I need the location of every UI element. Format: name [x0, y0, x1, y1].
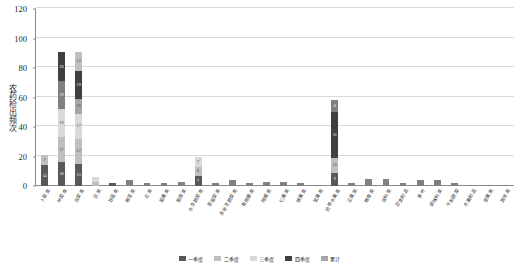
bar-segment	[451, 183, 458, 186]
bar-segment	[92, 182, 99, 186]
bar-segment	[229, 180, 236, 186]
bar-column[interactable]	[280, 182, 287, 186]
x-axis-label: 调味料类	[429, 188, 444, 208]
bar-value-label: 20	[58, 64, 65, 68]
bar-column[interactable]	[400, 183, 407, 186]
bar-column[interactable]	[502, 185, 509, 186]
legend-item[interactable]: 累计	[321, 255, 341, 262]
y-axis-label: 40	[0, 122, 27, 132]
legend-item[interactable]: 二季度	[214, 255, 239, 262]
x-axis-label: 水果制品	[463, 188, 478, 208]
bar-segment	[365, 179, 372, 186]
y-axis-label: 0	[0, 181, 27, 191]
x-axis-label: 其他类	[500, 188, 512, 204]
x-axis-label: 瓜果类	[346, 188, 358, 204]
y-axis-label: 80	[0, 63, 27, 73]
x-axis-label: 根茎类	[124, 188, 136, 204]
bar-column[interactable]	[468, 185, 475, 186]
legend-label: 二季度	[224, 255, 239, 262]
x-axis-label: 豆类	[93, 188, 103, 199]
bar-segment	[400, 183, 407, 186]
bar-segment: 20	[58, 52, 65, 82]
bar-column[interactable]	[144, 183, 151, 186]
bar-column[interactable]	[263, 182, 270, 186]
legend-label: 累计	[330, 255, 340, 262]
bar-segment: 10	[331, 158, 338, 173]
x-axis-label: 芽苗菜类	[207, 188, 222, 208]
bar-segment	[144, 183, 151, 186]
bar-column[interactable]	[178, 182, 185, 186]
bar-segment: 7	[195, 157, 202, 167]
chart-legend: 一季度二季度三季度四季度累计	[0, 255, 519, 262]
y-axis-label: 120	[0, 4, 27, 14]
bar-segment	[297, 183, 304, 186]
y-axis-tick-labels: 020406080100120	[0, 9, 31, 186]
legend-item[interactable]: 四季度	[285, 255, 310, 262]
bar-value-label: 14	[41, 174, 48, 178]
y-axis-tickmark	[33, 156, 36, 157]
bar-segment	[246, 183, 253, 186]
x-axis-label: 多年生蔬菜类	[219, 188, 239, 217]
bar-segment: 17	[75, 114, 82, 139]
x-axis-label: 热带水果类	[324, 188, 341, 212]
bar-column[interactable]	[126, 180, 133, 186]
x-axis-label: 仁果类	[278, 188, 290, 204]
x-axis-label: 核果类	[295, 188, 307, 204]
bar-value-label: 15	[75, 173, 82, 177]
bar-segment	[109, 183, 116, 186]
bar-segment: 8	[331, 100, 338, 112]
bar-column[interactable]	[92, 177, 99, 186]
legend-label: 一季度	[188, 255, 203, 262]
bar-column[interactable]	[229, 180, 236, 186]
bar-column[interactable]: 1617191920	[58, 52, 65, 186]
x-axis-label: 柑橘类	[261, 188, 273, 204]
bar-value-label: 19	[58, 93, 65, 97]
bar-column[interactable]	[314, 185, 321, 186]
bar-value-label: 16	[58, 172, 65, 176]
bar-segment	[468, 185, 475, 186]
bar-segment: 17	[75, 139, 82, 164]
bar-segment: 16	[58, 162, 65, 186]
bar-value-label: 17	[58, 148, 65, 152]
legend-item[interactable]: 三季度	[250, 255, 275, 262]
bar-column[interactable]	[383, 179, 390, 186]
bar-value-label: 19	[75, 83, 82, 87]
bar-value-label: 9	[331, 177, 338, 181]
bar-segment	[161, 183, 168, 186]
x-axis-label: 食用菌类	[241, 188, 256, 208]
bar-segment	[126, 180, 133, 186]
bar-column[interactable]	[365, 179, 372, 186]
bar-value-label: 7	[41, 158, 48, 162]
bar-column[interactable]	[417, 180, 424, 186]
bar-column[interactable]	[348, 183, 355, 186]
bar-column[interactable]	[485, 185, 492, 186]
bar-column[interactable]	[434, 180, 441, 186]
bar-column[interactable]: 767	[195, 157, 202, 186]
bar-segment: 19	[58, 81, 65, 109]
bar-segment: 6	[195, 167, 202, 176]
bar-value-label: 10	[331, 163, 338, 167]
bar-column[interactable]	[451, 183, 458, 186]
legend-item[interactable]: 一季度	[179, 255, 204, 262]
bar-column[interactable]	[212, 183, 219, 186]
bar-column[interactable]: 151717101913	[75, 52, 82, 186]
y-axis-label: 100	[0, 34, 27, 44]
bar-segment: 7	[41, 155, 48, 165]
y-axis-tickmark	[33, 97, 36, 98]
chart-root: 农药检出频次 020406080100120 14716171919201517…	[0, 0, 519, 270]
bar-column[interactable]	[246, 183, 253, 186]
y-axis-label: 20	[0, 152, 27, 162]
bar-value-label: 7	[195, 179, 202, 183]
bar-column[interactable]	[161, 183, 168, 186]
x-axis-label: 甘蓝类	[107, 188, 119, 204]
bar-column[interactable]: 910318	[331, 100, 338, 186]
bar-value-label: 6	[195, 169, 202, 173]
bar-column[interactable]: 147	[41, 155, 48, 186]
legend-swatch	[321, 256, 328, 261]
bar-segment: 10	[75, 99, 82, 114]
y-axis-label: 60	[0, 93, 27, 103]
y-axis-tickmark	[33, 127, 36, 128]
y-axis-tickmark	[33, 68, 36, 69]
bar-column[interactable]	[109, 183, 116, 186]
bar-column[interactable]	[297, 183, 304, 186]
